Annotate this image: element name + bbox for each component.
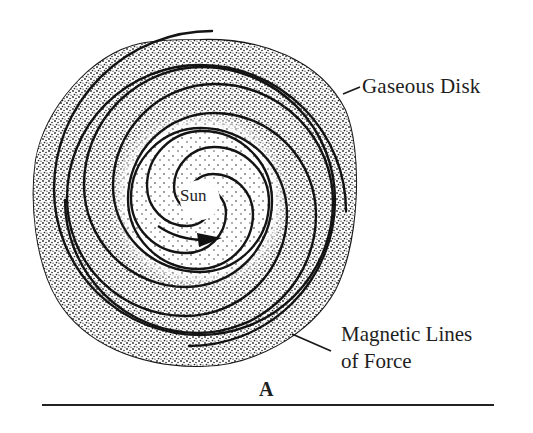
magnetic-lines-label: Magnetic Lines of Force (341, 321, 472, 375)
magnetic-lines-label-line-2: of Force (341, 348, 472, 375)
gaseous-disk-label: Gaseous Disk (362, 76, 480, 97)
gaseous-disk-leader-line (343, 87, 360, 94)
magnetic-lines-label-line-1: Magnetic Lines (341, 321, 472, 348)
solar-magnetic-disk-diagram: Sun Gaseous Disk Magnetic Lines of Force… (0, 0, 533, 433)
panel-label: A (259, 379, 273, 399)
sun-label: Sun (180, 187, 206, 204)
baseline-divider (42, 404, 494, 406)
magnetic-lines-leader-line (292, 334, 331, 351)
